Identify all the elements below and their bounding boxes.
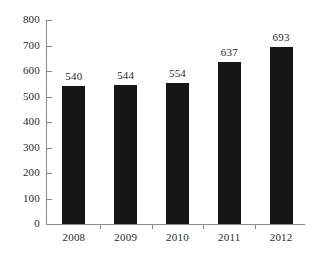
bar-value-label: 693: [254, 31, 308, 43]
x-axis-line: [46, 224, 305, 225]
y-axis-label: 400: [0, 116, 40, 127]
x-axis-label: 2011: [202, 231, 256, 244]
y-axis-tick: [47, 199, 52, 200]
y-axis-tick: [47, 46, 52, 47]
x-axis-label: 2010: [151, 231, 205, 244]
y-axis-tick: [47, 122, 52, 123]
y-axis-label: 0: [0, 218, 40, 229]
bar: [166, 83, 189, 224]
x-axis-label: 2012: [254, 231, 308, 244]
bar: [270, 47, 293, 224]
y-axis-label: 500: [0, 91, 40, 102]
bar-value-label: 544: [99, 69, 153, 81]
y-axis-label: 600: [0, 65, 40, 76]
y-axis-tick: [47, 173, 52, 174]
bar-value-label: 540: [47, 70, 101, 82]
y-axis-label: 700: [0, 40, 40, 51]
bar-value-label: 554: [151, 67, 205, 79]
x-axis-tick: [203, 225, 204, 229]
bar-chart: 0100200300400500600700800 54054455463769…: [0, 0, 323, 260]
y-axis-tick: [47, 97, 52, 98]
y-axis-tick: [47, 148, 52, 149]
x-axis-tick: [255, 225, 256, 229]
x-axis-label: 2008: [47, 231, 101, 244]
y-axis-label: 800: [0, 14, 40, 25]
bar: [62, 86, 85, 224]
y-axis-label: 300: [0, 142, 40, 153]
y-axis-tick: [47, 224, 52, 225]
y-axis-label: 200: [0, 167, 40, 178]
y-axis-tick: [47, 20, 52, 21]
bar: [218, 62, 241, 224]
bar: [114, 85, 137, 224]
y-axis-label: 100: [0, 193, 40, 204]
x-axis-tick: [100, 225, 101, 229]
x-axis-tick: [152, 225, 153, 229]
bar-value-label: 637: [202, 46, 256, 58]
x-axis-label: 2009: [99, 231, 153, 244]
